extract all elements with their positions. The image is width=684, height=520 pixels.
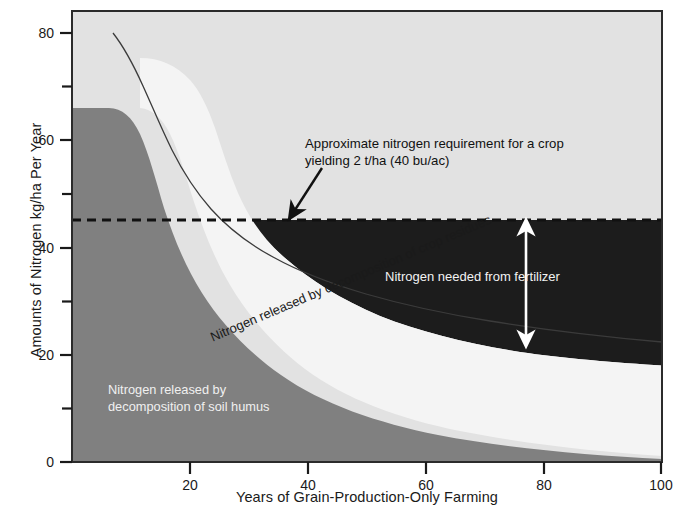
y-tick-label-80: 80: [12, 25, 54, 41]
y-axis-title: Amounts of Nitrogen kg/ha Per Year: [28, 110, 44, 370]
soil-humus-region-label: Nitrogen released by decomposition of so…: [108, 381, 269, 415]
y-axis-ticks-major: [60, 33, 72, 462]
y-tick-label-0: 0: [12, 454, 54, 470]
chart-canvas: [0, 0, 684, 520]
requirement-annotation-line1: Approximate nitrogen requirement for a c…: [305, 135, 564, 152]
x-axis-ticks-major: [190, 462, 661, 474]
soil-humus-label-line2: decomposition of soil humus: [108, 398, 269, 415]
fertilizer-region-label: Nitrogen needed from fertilizer: [385, 269, 560, 284]
requirement-annotation-line2: yielding 2 t/ha (40 bu/ac): [305, 152, 449, 169]
x-axis-title: Years of Grain-Production-Only Farming: [72, 489, 662, 505]
soil-humus-label-line1: Nitrogen released by: [108, 381, 269, 398]
chart-figure: 0 20 40 60 80 20 40 60 80 100 Amounts of…: [0, 0, 684, 520]
